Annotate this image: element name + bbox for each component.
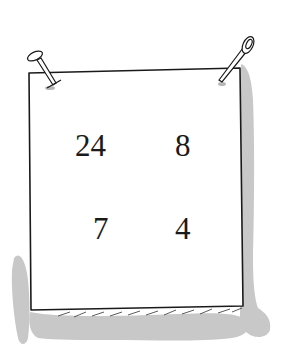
paper-sheet — [29, 68, 243, 310]
number-top-right: 8 — [175, 130, 191, 161]
number-top-left: 24 — [75, 130, 106, 161]
pinned-paper-illustration: 24 8 7 4 — [0, 0, 282, 347]
number-bottom-left: 7 — [93, 213, 109, 244]
paper-drawing — [0, 0, 282, 347]
number-bottom-right: 4 — [175, 213, 191, 244]
